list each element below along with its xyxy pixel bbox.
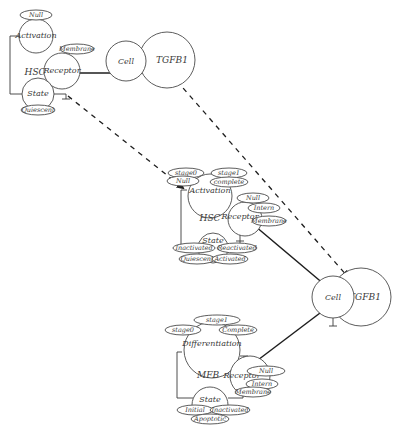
bottom-differentiation-label: Differentiation <box>181 339 241 348</box>
activated-label: Activated <box>213 255 245 263</box>
receptor-null-label: Null <box>245 194 260 202</box>
stage1-label: stage1 <box>218 169 240 177</box>
top-group: Activation Null HSC Receptor Membrane St… <box>10 10 195 115</box>
top-activation-state-label: Null <box>28 11 43 19</box>
receptor-intern-label: Intern <box>253 204 275 212</box>
diagram-canvas: Activation Null HSC Receptor Membrane St… <box>0 0 401 433</box>
bottom-group: Differentiation stage1 stage0 Complete M… <box>165 315 285 424</box>
link-receptor-cell-bottom <box>250 310 324 366</box>
middle-activation-label: Activation <box>188 186 230 195</box>
bottom-inactivated-label: Inactivated <box>210 406 248 414</box>
inactivated-label: Inactivated <box>174 244 212 252</box>
initial-label: Initial <box>184 406 204 414</box>
top-state-state-label: Quiescent <box>21 106 54 114</box>
top-cell-label: Cell <box>118 57 134 66</box>
quiescent-label: Quiescent <box>180 255 213 263</box>
middle-group: Activation stage0 stage1 Null complete H… <box>167 168 287 264</box>
top-compartment-label: HSC <box>24 67 46 77</box>
diff-stage1-label: stage1 <box>206 316 228 324</box>
right-cell-label: Cell <box>325 293 341 302</box>
bottom-state-label: State <box>199 395 221 404</box>
middle-compartment-label: HSC <box>199 213 221 223</box>
top-receptor-state-label: Membrane <box>58 45 95 53</box>
right-group: TGFB1 Cell <box>312 268 391 326</box>
null-label: Null <box>175 177 190 185</box>
top-state-label: State <box>27 89 49 98</box>
apoptotic-label: Apoptotic <box>193 415 226 423</box>
top-activation-label: Activation <box>14 31 56 40</box>
receptor-membrane-label: Membrane <box>250 217 287 225</box>
top-tgfb1-label: TGFB1 <box>156 55 188 65</box>
dashed-arrow-state-to-activation <box>68 96 183 188</box>
complete-label: complete <box>214 178 244 186</box>
bottom-receptor-null-label: Null <box>258 367 273 375</box>
diff-complete-label: Complete <box>222 326 254 334</box>
diff-stage0-label: stage0 <box>172 326 194 334</box>
link-receptor-cell-middle <box>255 226 325 285</box>
bottom-compartment-label: MFB <box>196 370 219 380</box>
top-receptor-label: Receptor <box>43 66 82 75</box>
reactivated-label: Reactivated <box>216 244 256 252</box>
bottom-receptor-membrane-label: Membrane <box>234 388 271 396</box>
